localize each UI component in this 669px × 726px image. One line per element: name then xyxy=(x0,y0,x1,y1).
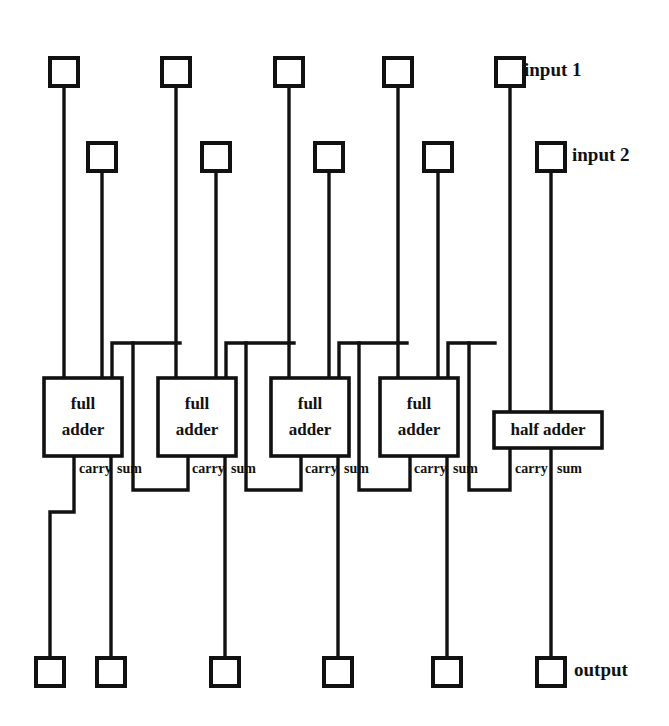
full-adder-3-label-line2: adder xyxy=(289,420,332,439)
terminal-output[interactable] xyxy=(537,658,565,686)
terminal-input-a4[interactable] xyxy=(384,58,412,86)
terminal-output-bit0[interactable] xyxy=(36,658,64,686)
terminal-input-b1[interactable] xyxy=(88,143,116,171)
output-label: output xyxy=(574,659,629,680)
full-adder-1-box[interactable] xyxy=(44,378,122,456)
full-adder-3-sum-label: sum xyxy=(344,461,369,476)
half-adder-label: half adder xyxy=(510,420,586,439)
full-adder-4-box[interactable] xyxy=(380,378,458,456)
terminal-input-b2[interactable] xyxy=(202,143,230,171)
terminal-output-bit4[interactable] xyxy=(433,658,461,686)
full-adder-3-box[interactable] xyxy=(271,378,349,456)
full-adder-3-carry-label: carry xyxy=(305,461,338,476)
terminal-output-bit2[interactable] xyxy=(211,658,239,686)
terminal-input-a2[interactable] xyxy=(162,58,190,86)
full-adder-1-sum-label: sum xyxy=(117,461,142,476)
terminal-input-2[interactable] xyxy=(537,143,565,171)
input-2-label: input 2 xyxy=(572,144,630,165)
full-adder-1-carry-label: carry xyxy=(79,461,112,476)
terminal-input-a1[interactable] xyxy=(50,58,78,86)
full-adder-4-label-line1: full xyxy=(407,394,432,413)
full-adder-2-label-line1: full xyxy=(185,394,210,413)
full-adder-1-label-line2: adder xyxy=(62,420,105,439)
half-adder-sum-label: sum xyxy=(557,461,582,476)
adder-circuit-diagram: full adder full adder full adder full ad… xyxy=(0,0,669,726)
wire-carryin-1 xyxy=(112,343,180,380)
circuit-canvas: full adder full adder full adder full ad… xyxy=(0,0,669,726)
terminal-input-b3[interactable] xyxy=(315,143,343,171)
terminal-input-a3[interactable] xyxy=(275,58,303,86)
terminal-input-1[interactable] xyxy=(496,58,524,86)
full-adder-2-label-line2: adder xyxy=(176,420,219,439)
full-adder-3-label-line1: full xyxy=(298,394,323,413)
full-adder-2-sum-label: sum xyxy=(231,461,256,476)
wire-carryin-4 xyxy=(448,343,495,380)
full-adder-2-carry-label: carry xyxy=(192,461,225,476)
terminal-output-bit1[interactable] xyxy=(97,658,125,686)
terminal-input-b4[interactable] xyxy=(424,143,452,171)
full-adder-4-sum-label: sum xyxy=(453,461,478,476)
wire-carryout-1 xyxy=(50,455,74,658)
full-adder-4-label-line2: adder xyxy=(398,420,441,439)
full-adder-4-carry-label: carry xyxy=(414,461,447,476)
input-1-label: input 1 xyxy=(524,59,582,80)
full-adder-2-box[interactable] xyxy=(158,378,236,456)
full-adder-1-label-line1: full xyxy=(71,394,96,413)
terminal-output-bit3[interactable] xyxy=(324,658,352,686)
half-adder-carry-label: carry xyxy=(515,461,548,476)
wire-carryin-2 xyxy=(226,343,294,380)
